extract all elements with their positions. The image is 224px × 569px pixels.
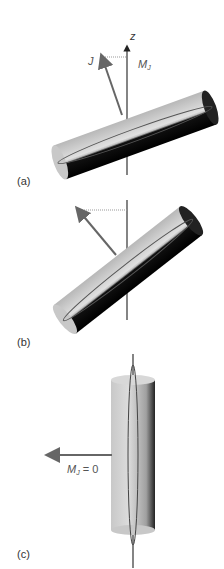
z-axis-label: z	[130, 30, 136, 42]
mj-label: MJ	[138, 58, 151, 71]
mj-zero-label: MJ = 0	[67, 463, 98, 476]
panel-c	[52, 354, 155, 568]
diagram-canvas	[0, 0, 224, 569]
j-vector-arrow-b	[80, 212, 116, 255]
panel-b	[49, 200, 207, 337]
cylinder-c	[111, 380, 155, 530]
cylinder-b	[49, 203, 207, 337]
j-vector-arrow	[103, 60, 122, 115]
panel-a	[48, 48, 222, 181]
panel-label-c: (c)	[17, 548, 30, 560]
cylinder-a	[48, 89, 222, 182]
panel-label-a: (a)	[17, 175, 30, 187]
panel-label-b: (b)	[17, 336, 30, 348]
j-label: J	[88, 55, 94, 67]
